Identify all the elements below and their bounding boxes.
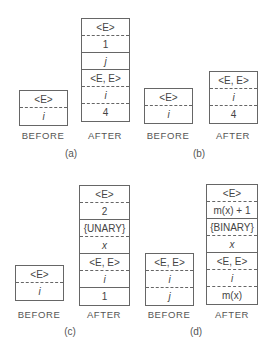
- stack-cell: i: [80, 271, 129, 288]
- panel-a-caption: (a): [56, 148, 86, 159]
- stack-cell: m(x): [207, 287, 257, 304]
- stack-cell: <E, E>: [82, 70, 129, 87]
- panel-a-before-label: BEFORE: [13, 130, 73, 141]
- panel-a-before-stack: <E>i: [19, 90, 68, 126]
- panel-d-after-stack: <E>m(x) + 1{BINARY}x<E, E>im(x): [206, 184, 258, 305]
- panel-d-before-stack: <E, E>ij: [145, 253, 194, 306]
- stack-cell: <E, E>: [80, 254, 129, 271]
- stack-cell: i: [82, 87, 129, 104]
- panel-c-before-stack: <E>i: [15, 265, 64, 301]
- panel-c-after-label: AFTER: [74, 309, 134, 320]
- stack-cell: <E, E>: [146, 254, 193, 271]
- stack-cell: 1: [82, 36, 129, 53]
- stack-cell: i: [210, 89, 257, 106]
- stack-cell: i: [146, 271, 193, 288]
- panel-b-before-label: BEFORE: [138, 130, 198, 141]
- stack-cell: i: [207, 270, 257, 287]
- panel-b-after-label: AFTER: [203, 130, 263, 141]
- stack-cell: <E, E>: [210, 72, 257, 89]
- stack-cell: i: [16, 283, 63, 300]
- stack-cell: x: [207, 236, 257, 253]
- stack-cell: x: [80, 237, 129, 254]
- stack-cell: <E>: [16, 266, 63, 283]
- panel-d-after-label: AFTER: [202, 309, 262, 320]
- stack-cell: m(x) + 1: [207, 202, 257, 219]
- panel-d-caption: (d): [181, 326, 211, 337]
- stack-cell: 4: [210, 106, 257, 123]
- stack-cell: <E>: [207, 185, 257, 202]
- stack-cell: 2: [80, 203, 129, 220]
- stack-cell: i: [20, 108, 67, 125]
- stack-cell: <E>: [145, 89, 192, 106]
- panel-d-before-label: BEFORE: [139, 309, 199, 320]
- panel-b-before-stack: <E>i: [144, 88, 193, 124]
- panel-c-caption: (c): [55, 326, 85, 337]
- stack-cell: <E>: [82, 19, 129, 36]
- panel-c-after-stack: <E>2{UNARY}x<E, E>i1: [79, 185, 130, 306]
- stack-cell: <E>: [80, 186, 129, 203]
- stack-cell: {UNARY}: [80, 220, 129, 237]
- panel-a-after-label: AFTER: [75, 130, 135, 141]
- panel-b-caption: (b): [184, 148, 214, 159]
- panel-a-after-stack: <E>1j<E, E>i4: [81, 18, 130, 122]
- panel-b-after-stack: <E, E>i4: [209, 71, 258, 124]
- stack-cell: {BINARY}: [207, 219, 257, 236]
- stack-cell: i: [145, 106, 192, 123]
- stack-cell: j: [146, 288, 193, 305]
- stack-cell: 1: [80, 288, 129, 305]
- stack-cell: 4: [82, 104, 129, 121]
- stack-cell: j: [82, 53, 129, 70]
- stack-cell: <E>: [20, 91, 67, 108]
- stack-cell: <E, E>: [207, 253, 257, 270]
- panel-c-before-label: BEFORE: [9, 309, 69, 320]
